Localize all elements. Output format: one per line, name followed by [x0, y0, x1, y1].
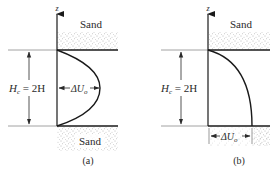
- delta-u-label: ΔUo: [70, 83, 88, 96]
- sand-layer-bottom-dense: [254, 127, 270, 146]
- sand-layer-top: [208, 32, 270, 50]
- consolidation-diagram: Sand Sand z ΔUo Hc = 2H (a) Sand: [0, 0, 279, 178]
- height-label: Hc = 2H: [160, 82, 197, 96]
- sand-label-bottom: Sand: [79, 135, 102, 147]
- sand-label-top: Sand: [230, 18, 253, 30]
- panel-a: Sand Sand z ΔUo Hc = 2H (a): [8, 4, 118, 167]
- z-axis-label: z: [54, 4, 59, 13]
- sand-layer-top: [57, 32, 118, 50]
- panel-caption-b: (b): [233, 155, 245, 167]
- panel-caption-a: (a): [82, 155, 93, 167]
- displacement-profile-curve: [208, 50, 252, 126]
- panel-b: Sand z ΔUo Hc = 2H (b): [160, 4, 270, 167]
- sand-label-top: Sand: [80, 18, 103, 30]
- z-axis-label: z: [205, 4, 210, 13]
- height-label: Hc = 2H: [8, 82, 45, 96]
